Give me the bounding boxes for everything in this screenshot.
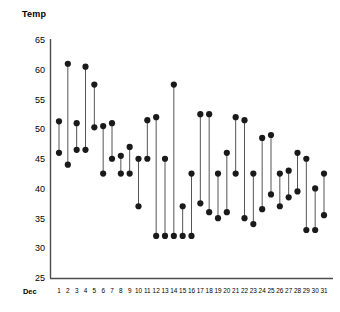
y-tick-label: 50 (35, 124, 45, 134)
data-point-high (197, 111, 203, 117)
x-tick-label: 8 (119, 287, 123, 294)
x-tick-label: 1 (57, 287, 61, 294)
data-point-high (180, 203, 186, 209)
data-point-high (56, 118, 62, 124)
data-point-low (171, 233, 177, 239)
data-point-high (250, 170, 256, 176)
data-point-low (118, 170, 124, 176)
data-point-high (206, 111, 212, 117)
data-point-low (312, 227, 318, 233)
x-tick-label: 30 (312, 287, 320, 294)
x-tick-label: 27 (285, 287, 293, 294)
data-point-low (153, 233, 159, 239)
x-tick-label: 12 (153, 287, 161, 294)
data-point-high (162, 156, 168, 162)
y-tick-label: 35 (35, 214, 45, 224)
y-tick-label: 55 (35, 95, 45, 105)
data-point-low (294, 188, 300, 194)
x-tick-label: 28 (294, 287, 302, 294)
y-tick-label: 60 (35, 65, 45, 75)
x-tick-label: 7 (110, 287, 114, 294)
data-point-low (180, 233, 186, 239)
data-point-high (135, 156, 141, 162)
data-point-high (241, 117, 247, 123)
data-point-high (233, 114, 239, 120)
data-point-high (224, 150, 230, 156)
x-tick-label: 13 (161, 287, 169, 294)
data-point-high (286, 168, 292, 174)
data-point-low (321, 212, 327, 218)
x-tick-label: 5 (93, 287, 97, 294)
data-point-low (127, 170, 133, 176)
data-point-high (127, 144, 133, 150)
data-point-high (144, 117, 150, 123)
data-point-high (65, 61, 71, 67)
data-point-low (135, 203, 141, 209)
x-tick-label: 3 (75, 287, 79, 294)
data-point-low (162, 233, 168, 239)
data-point-low (65, 162, 71, 168)
data-point-low (303, 227, 309, 233)
x-tick-label: 31 (320, 287, 328, 294)
x-tick-label: 29 (303, 287, 311, 294)
data-point-low (197, 200, 203, 206)
x-tick-label: 10 (135, 287, 143, 294)
data-point-low (215, 215, 221, 221)
x-tick-label: 6 (101, 287, 105, 294)
data-point-high (312, 185, 318, 191)
data-point-high (91, 81, 97, 87)
x-tick-label: 15 (179, 287, 187, 294)
temperature-range-chart: Temp 253035404550556065 1234567891011121… (0, 0, 340, 312)
x-tick-label: 25 (267, 287, 275, 294)
x-tick-label: 22 (241, 287, 249, 294)
data-point-low (259, 206, 265, 212)
plot-area: 253035404550556065 123456789101112131415… (0, 0, 340, 312)
x-tick-label: 4 (84, 287, 88, 294)
data-point-high (109, 120, 115, 126)
data-point-low (250, 221, 256, 227)
x-tick-label: 23 (250, 287, 258, 294)
data-point-low (56, 150, 62, 156)
data-point-high (153, 114, 159, 120)
data-series-marks (56, 61, 327, 239)
x-tick-label: 16 (188, 287, 196, 294)
x-tick-label: 14 (170, 287, 178, 294)
data-point-high (303, 156, 309, 162)
data-point-high (294, 150, 300, 156)
x-tick-label: 2 (66, 287, 70, 294)
data-point-high (118, 153, 124, 159)
y-tick-label: 25 (35, 273, 45, 283)
data-point-low (206, 209, 212, 215)
x-tick-label: 11 (144, 287, 151, 294)
y-tick-label: 65 (35, 35, 45, 45)
data-point-low (82, 147, 88, 153)
data-point-low (277, 203, 283, 209)
x-tick-label: 17 (197, 287, 205, 294)
data-point-high (171, 81, 177, 87)
data-point-low (188, 233, 194, 239)
data-point-low (233, 170, 239, 176)
data-point-low (91, 124, 97, 130)
data-point-high (215, 170, 221, 176)
data-point-low (268, 191, 274, 197)
data-point-high (188, 170, 194, 176)
data-point-high (268, 132, 274, 138)
y-tick-label: 45 (35, 154, 45, 164)
data-point-high (82, 64, 88, 70)
data-point-low (241, 215, 247, 221)
data-point-low (286, 194, 292, 200)
x-tick-label: 21 (232, 287, 240, 294)
x-tick-label: 26 (276, 287, 284, 294)
data-point-high (321, 170, 327, 176)
data-point-high (74, 120, 80, 126)
x-tick-label: 9 (128, 287, 132, 294)
data-point-low (100, 170, 106, 176)
data-point-low (144, 156, 150, 162)
x-axis-title: Dec (23, 287, 37, 296)
data-point-low (74, 147, 80, 153)
x-axis-tick-labels: 1234567891011121314151617181920212223242… (57, 287, 328, 294)
x-tick-label: 20 (223, 287, 231, 294)
data-point-high (259, 135, 265, 141)
x-tick-label: 18 (206, 287, 214, 294)
data-point-low (224, 209, 230, 215)
